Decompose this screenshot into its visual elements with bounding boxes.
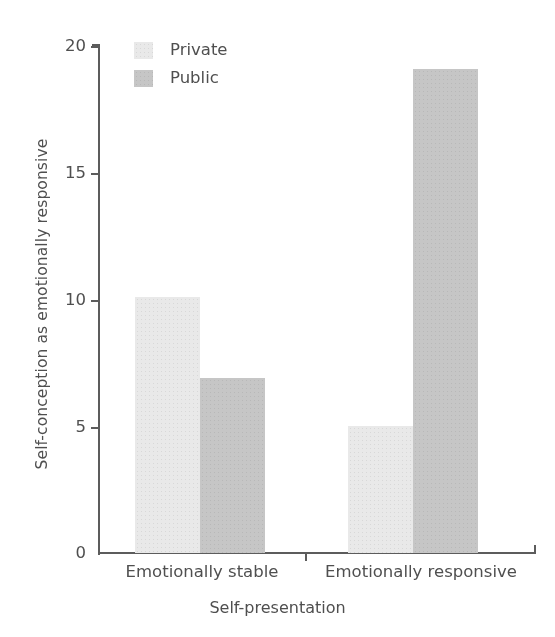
x-category-label-emotionally-stable: Emotionally stable	[98, 562, 306, 581]
legend-swatch-texture	[134, 42, 153, 59]
legend-label-private: Private	[170, 42, 228, 59]
bar-texture	[200, 378, 265, 553]
y-tick-label-20: 20	[46, 38, 86, 55]
bar-texture	[348, 426, 413, 553]
bar-emotionally-stable-private	[135, 297, 200, 553]
bar-texture	[135, 297, 200, 553]
x-category-label-emotionally-responsive: Emotionally responsive	[306, 562, 536, 581]
legend: Private Public	[134, 36, 228, 92]
y-tick-label-10: 10	[46, 292, 86, 309]
bar-emotionally-responsive-private	[348, 426, 413, 553]
legend-swatch-public-icon	[134, 70, 153, 87]
bar-chart: Self-conception as emotionally responsiv…	[0, 0, 555, 637]
y-tick-label-5: 5	[46, 419, 86, 436]
y-tick-label-15: 15	[46, 165, 86, 182]
bar-emotionally-responsive-public	[413, 69, 478, 553]
x-axis-title: Self-presentation	[0, 598, 555, 617]
bar-texture	[413, 69, 478, 553]
y-tick-label-0: 0	[46, 545, 86, 562]
legend-swatch-texture	[134, 70, 153, 87]
plot-area	[98, 46, 536, 553]
legend-label-public: Public	[170, 70, 219, 87]
bar-emotionally-stable-public	[200, 378, 265, 553]
x-axis-separator-tick	[305, 552, 307, 561]
legend-item-public: Public	[134, 64, 228, 92]
legend-item-private: Private	[134, 36, 228, 64]
legend-swatch-private-icon	[134, 42, 153, 59]
